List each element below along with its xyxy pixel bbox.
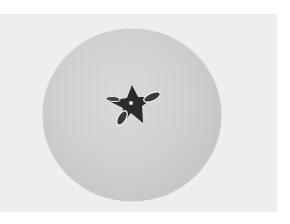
apple-slice (43, 29, 221, 201)
core-star-icon (109, 85, 155, 125)
photo-frame (0, 14, 277, 212)
apple-core-star (43, 29, 221, 201)
